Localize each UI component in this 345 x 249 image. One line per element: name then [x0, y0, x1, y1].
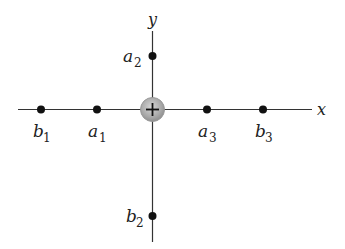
point-b1 [37, 106, 45, 114]
y-axis-label: y [147, 10, 158, 29]
svg-text:a: a [123, 46, 133, 66]
field-points-diagram: x y b 1 a 1 a 2 a 3 b 2 b 3 [0, 0, 345, 249]
point-a3 [203, 106, 211, 114]
point-a1 [93, 106, 101, 114]
label-a1: a 1 [88, 121, 107, 145]
label-a2: a 2 [123, 46, 142, 70]
label-b2: b 2 [126, 206, 144, 230]
label-a3: a 3 [198, 121, 217, 145]
svg-text:2: 2 [136, 216, 144, 230]
x-axis-label: x [317, 100, 326, 119]
svg-text:a: a [198, 121, 208, 141]
svg-text:2: 2 [134, 56, 142, 70]
svg-text:3: 3 [265, 131, 273, 145]
svg-text:3: 3 [209, 131, 217, 145]
positive-charge [141, 98, 165, 122]
point-b2 [149, 212, 157, 220]
svg-text:1: 1 [43, 131, 51, 145]
svg-text:1: 1 [99, 131, 107, 145]
point-b3 [259, 106, 267, 114]
label-b3: b 3 [255, 121, 273, 145]
label-b1: b 1 [33, 121, 51, 145]
svg-text:a: a [88, 121, 98, 141]
point-a2 [149, 52, 157, 60]
